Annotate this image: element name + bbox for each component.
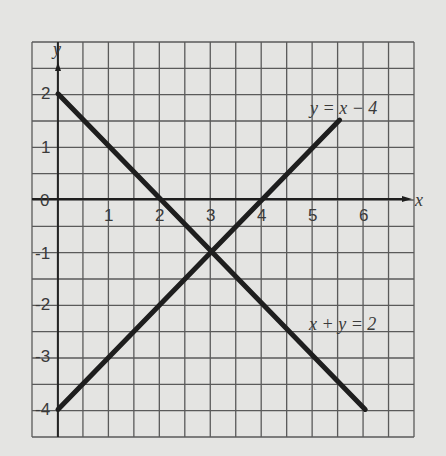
y-tick: 2 <box>41 84 50 103</box>
y-tick: -3 <box>35 347 50 366</box>
x-tick: 1 <box>104 206 113 225</box>
y-tick: -2 <box>35 295 50 314</box>
y-tick: -4 <box>35 400 50 419</box>
x-tick: 6 <box>359 206 368 225</box>
x-tick: 5 <box>308 206 317 225</box>
origin-label: 0 <box>40 191 49 210</box>
y-tick: 1 <box>41 138 50 157</box>
x-tick: 2 <box>155 206 164 225</box>
x-axis-arrow-icon <box>402 196 412 202</box>
line-y-eq-x-minus-4 <box>58 120 340 409</box>
line-label-x-plus-y-eq-2: x + y = 2 <box>308 314 376 334</box>
y-tick: -1 <box>35 244 50 263</box>
y-axis-arrow-icon <box>55 62 61 71</box>
x-tick: 3 <box>206 206 215 225</box>
graph: y x 1 2 3 4 5 6 2 1 0 -1 -2 -3 -4 y = x … <box>0 0 446 456</box>
y-axis-label: y <box>51 39 61 59</box>
line-label-y-eq-x-minus-4: y = x − 4 <box>308 98 377 118</box>
x-axis-label: x <box>414 190 423 210</box>
x-tick: 4 <box>257 206 266 225</box>
